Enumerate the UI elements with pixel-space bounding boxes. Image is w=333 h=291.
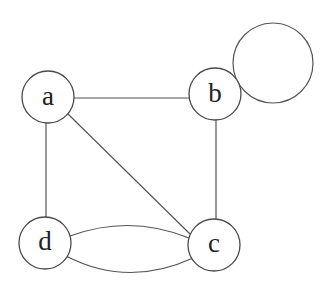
graph-diagram: a b c d xyxy=(0,0,333,291)
self-loop-b xyxy=(233,23,313,103)
node-a: a xyxy=(22,71,74,123)
edge-a-c xyxy=(67,113,190,234)
node-c: c xyxy=(188,219,240,271)
node-d: d xyxy=(19,217,71,269)
node-label-c: c xyxy=(208,228,220,258)
node-label-b: b xyxy=(208,78,222,108)
node-label-a: a xyxy=(42,81,54,111)
node-b: b xyxy=(189,68,241,120)
edge-d-c-upper xyxy=(70,225,189,238)
edge-d-c-lower xyxy=(66,256,193,273)
node-label-d: d xyxy=(38,226,52,256)
